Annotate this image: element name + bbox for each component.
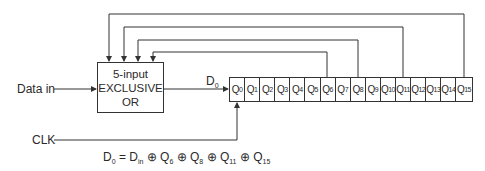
xor-label-line3: OR [122, 95, 139, 109]
register-cell-q4: Q4 [290, 78, 305, 101]
register-cell-q0: Q0 [230, 78, 245, 101]
register-cell-q9: Q9 [366, 78, 381, 101]
register-cell-q11: Q11 [396, 78, 411, 101]
shift-register: Q0 Q1 Q2 Q3 Q4 Q5 Q6 Q7 Q8 Q9 Q10 Q11 Q1… [229, 77, 473, 102]
data-in-label: Data in [17, 82, 55, 96]
register-cell-q10: Q10 [381, 78, 396, 101]
register-cell-q14: Q14 [441, 78, 456, 101]
register-cell-q12: Q12 [411, 78, 426, 101]
xor-label-line1: 5-input [113, 67, 148, 81]
xor-label-line2: EXCLUSIVE [98, 81, 163, 95]
register-cell-q2: Q2 [260, 78, 275, 101]
register-cell-q5: Q5 [305, 78, 320, 101]
register-cell-q3: Q3 [275, 78, 290, 101]
feedback-q8-wire [138, 40, 358, 77]
register-cell-q13: Q13 [426, 78, 441, 101]
register-cell-q8: Q8 [351, 78, 366, 101]
register-cell-q7: Q7 [336, 78, 351, 101]
d0-output-label: D0 [206, 74, 219, 89]
xor-gate: 5-input EXCLUSIVE OR [97, 62, 164, 113]
register-cell-q6: Q6 [321, 78, 336, 101]
clk-label: CLK [32, 133, 55, 147]
register-cell-q15: Q15 [456, 78, 471, 101]
feedback-q6-wire [153, 52, 327, 77]
register-cell-q1: Q1 [245, 78, 260, 101]
feedback-equation: D0 = Din ⊕ Q6 ⊕ Q8 ⊕ Q11 ⊕ Q15 [103, 150, 270, 165]
